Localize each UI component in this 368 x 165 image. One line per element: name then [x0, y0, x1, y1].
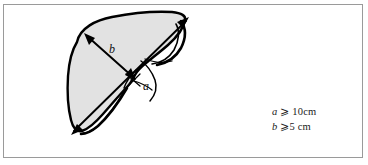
- legend-variable-b: b: [272, 121, 277, 132]
- legend-line-a: a ⩾ 10cm: [272, 104, 356, 119]
- legend-variable-a: a: [272, 106, 277, 117]
- legend-constraint-a: ⩾ 10cm: [280, 106, 316, 117]
- figure-container: b a a ⩾ 10cm b ⩾5 cm: [0, 0, 368, 165]
- legend-line-b: b ⩾5 cm: [272, 119, 356, 134]
- legend-constraint-b: ⩾5 cm: [280, 121, 311, 132]
- dimension-label-a: a: [143, 79, 149, 94]
- dimension-label-b: b: [109, 42, 115, 57]
- legend: a ⩾ 10cm b ⩾5 cm: [272, 104, 356, 134]
- liver-diagram: [0, 0, 368, 165]
